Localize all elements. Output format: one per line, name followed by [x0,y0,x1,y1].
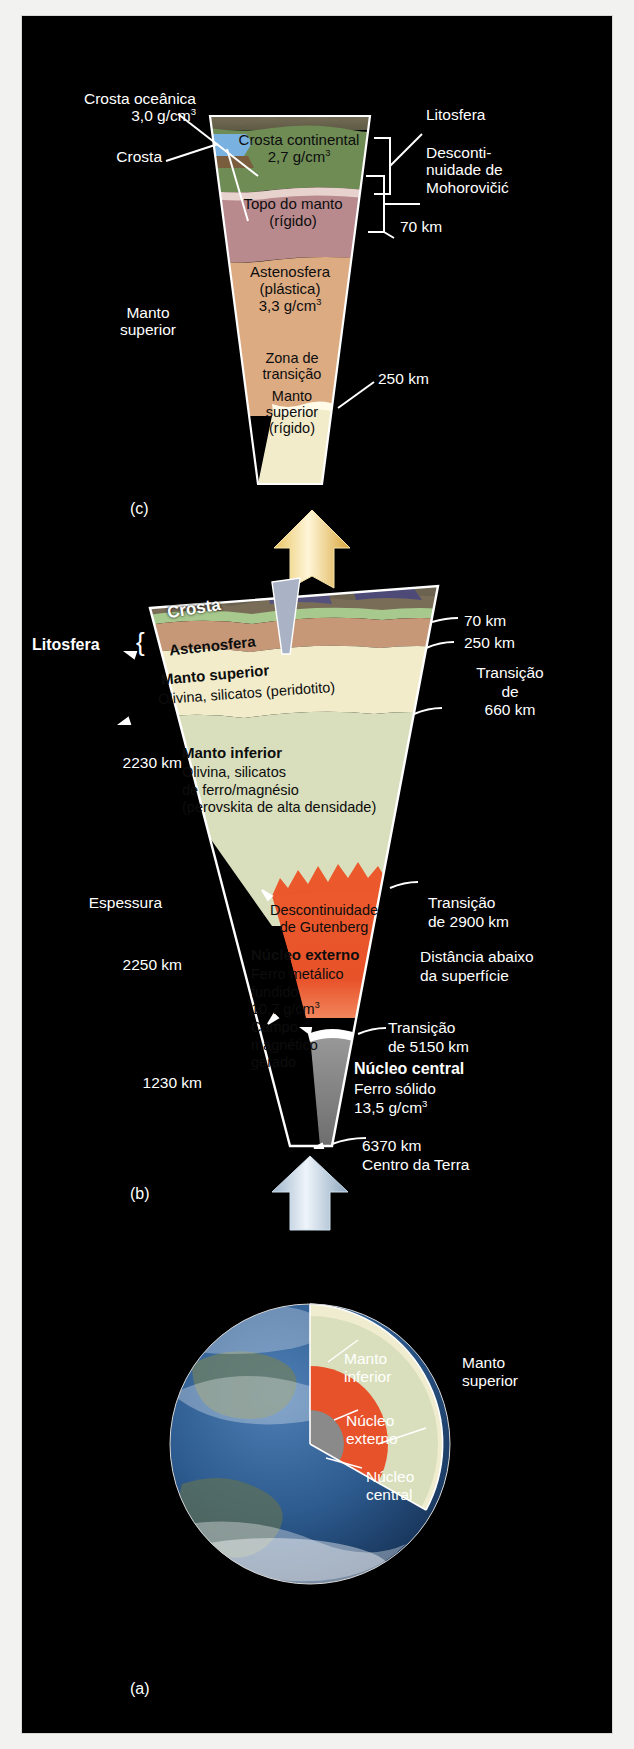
label-manto-inferior-a: Manto inferior [344,1350,391,1386]
label-nucleo-central-b: Núcleo central [354,1060,464,1078]
label-250km-c: 250 km [378,370,429,387]
label-crosta: Crosta [66,148,162,165]
label-crosta-oceanica: Crosta oceânica 3,0 g/cm3 [36,90,196,125]
litosfera-brace: { [136,628,145,657]
label-crosta-continental: Crosta continental 2,7 g/cm3 [214,132,384,166]
panel-b-graphics [22,566,612,1186]
label-descontinuidade-mohorovicic: Desconti- nuidade de Mohorovičić [426,144,509,196]
label-nucleo-externo-b: Núcleo externo [251,947,359,964]
label-litosfera-c: Litosfera [426,106,485,123]
figure-black-frame: Crosta oceânica 3,0 g/cm3 Crosta Crosta … [22,16,612,1733]
panel-a-graphics [22,1244,612,1644]
label-descontinuidade-gutenberg: Descontinuidade de Gutenberg [240,902,408,937]
label-astenosfera-c: Astenosfera (plástica) 3,3 g/cm3 [220,264,360,314]
label-1230km: 1230 km [52,1074,202,1091]
label-70km-c: 70 km [400,218,442,235]
label-manto-superior-c: Manto superior [88,304,208,339]
label-250km-b: 250 km [464,634,515,651]
label-nucleo-central-a: Núcleo central [366,1468,414,1504]
figure-page: Crosta oceânica 3,0 g/cm3 Crosta Crosta … [0,0,634,1749]
label-2230km: 2230 km [52,754,182,771]
label-nucleo-externo-detalhes: Ferro metálico fundido 10,7 g/cm3 Campo … [251,966,344,1072]
label-espessura: Espessura [52,894,162,911]
label-litosfera-b: Litosfera [32,636,100,654]
label-nucleo-central-detalhes: Ferro sólido 13,5 g/cm3 [354,1080,436,1117]
panel-a-tag: (a) [130,1680,150,1698]
label-manto-inferior-b: Manto inferior [182,745,282,762]
label-zona-de-transicao: Zona de transição [232,350,352,382]
label-manto-inferior-composicao: Olivina, silicatos de ferro/magnésio (pe… [182,764,376,817]
label-nucleo-externo-a: Núcleo externo [346,1412,398,1448]
label-manto-superior-a: Manto superior [462,1354,518,1390]
panel-a-connector-arrow [22,1166,612,1246]
label-transicao-5150km: Transição de 5150 km [388,1019,469,1056]
label-transicao-660km: Transição de 660 km [442,664,578,720]
label-transicao-2900km: Transição de 2900 km [428,894,509,931]
label-70km-b: 70 km [464,612,506,629]
label-distancia-abaixo-superficie: Distância abaixo da superfície [420,948,534,985]
label-manto-superior-rigido-c: Manto superior (rígido) [236,388,348,437]
label-2250km: 2250 km [52,956,182,973]
label-topo-do-manto: Topo do manto (rígido) [218,196,368,230]
